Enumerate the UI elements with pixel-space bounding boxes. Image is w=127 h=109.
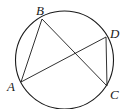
- label-c: C: [110, 87, 119, 102]
- label-a: A: [6, 79, 15, 94]
- label-b: B: [36, 3, 44, 18]
- circle: [16, 11, 114, 109]
- label-d: D: [109, 26, 120, 41]
- circle-diagram: B D A C: [0, 0, 127, 109]
- segment-bc: [42, 19, 107, 86]
- segment-dc: [106, 37, 107, 86]
